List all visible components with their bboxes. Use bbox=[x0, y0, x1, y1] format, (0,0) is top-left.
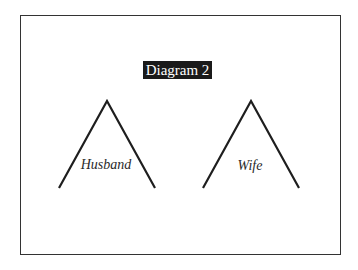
husband-triangle bbox=[59, 101, 155, 188]
diagram-canvas: Husband Wife bbox=[0, 0, 358, 270]
wife-triangle bbox=[203, 101, 299, 188]
husband-label: Husband bbox=[80, 157, 133, 172]
wife-node: Wife bbox=[203, 101, 299, 188]
wife-label: Wife bbox=[238, 158, 263, 173]
husband-node: Husband bbox=[59, 101, 155, 188]
